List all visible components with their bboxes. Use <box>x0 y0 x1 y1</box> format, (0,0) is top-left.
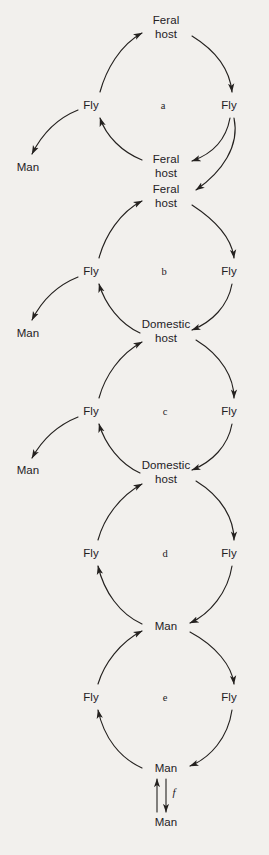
domestic-host-to-fly-left-c <box>99 424 140 473</box>
fly-right-to-man-e <box>190 710 232 766</box>
fly-left-to-domestic-host-d <box>98 484 142 540</box>
domestic-host-to-fly-left-b <box>99 284 140 333</box>
fly-right-to-man-d <box>190 566 232 623</box>
node-label-n20: Man <box>155 761 178 775</box>
transmission-cycle-diagram: Feral hostFlyFlyManFeral hostFeral hostF… <box>0 0 269 855</box>
fly-right-to-feral-host-b <box>196 118 235 190</box>
node-label-n15: Fly <box>83 546 99 560</box>
node-label-n8: Fly <box>221 264 237 278</box>
feral-host-to-fly-right-b <box>192 205 234 258</box>
node-label-n6: Feral host <box>153 182 180 210</box>
node-label-n17: Man <box>155 619 178 633</box>
domestic-host-to-fly-right-d <box>196 481 234 540</box>
node-label-n19: Fly <box>221 690 237 704</box>
node-label-n4: Man <box>17 160 40 174</box>
fly-right-to-domestic-host-c <box>192 424 232 470</box>
node-label-n1: Feral host <box>153 13 180 41</box>
edge-letter-f: f <box>172 786 175 798</box>
cycle-letter-a: a <box>161 100 166 111</box>
fly-left-to-man-a <box>32 110 78 154</box>
node-label-n13: Man <box>17 463 40 477</box>
man-to-fly-left-d <box>98 566 142 624</box>
fly-left-to-man-c <box>32 417 78 458</box>
node-label-n14: Domestic host <box>142 458 191 486</box>
fly-left-to-feral-host-a <box>100 33 142 92</box>
fly-left-to-man-e <box>98 631 142 684</box>
node-label-n3: Fly <box>221 98 237 112</box>
man-to-fly-left-e <box>98 710 142 768</box>
node-label-n7: Fly <box>83 264 99 278</box>
fly-right-to-domestic-host-b <box>192 284 232 330</box>
node-label-n9: Man <box>17 326 40 340</box>
node-label-n11: Fly <box>83 404 99 418</box>
cycle-letter-d: d <box>162 548 167 559</box>
man-to-fly-right-e <box>190 632 234 684</box>
fly-left-to-domestic-host-c <box>99 342 142 398</box>
feral-host-to-fly-right-a <box>192 36 232 92</box>
cycle-letter-b: b <box>161 266 166 277</box>
diagram-arrow-layer <box>0 0 269 855</box>
feral-host-to-fly-left-a <box>100 118 142 160</box>
cycle-letter-e: e <box>163 692 168 703</box>
fly-left-to-feral-host-b <box>99 201 142 258</box>
fly-right-to-feral-host-a <box>192 118 230 161</box>
node-label-n5: Feral host <box>153 152 180 180</box>
domestic-host-to-fly-right-c <box>196 340 234 398</box>
fly-left-to-man-b <box>32 277 78 320</box>
node-label-n12: Fly <box>221 404 237 418</box>
node-label-n10: Domestic host <box>142 317 191 345</box>
node-label-n2: Fly <box>83 98 99 112</box>
cycle-letter-c: c <box>163 406 168 417</box>
node-label-n21: Man <box>155 815 178 829</box>
node-label-n16: Fly <box>221 546 237 560</box>
node-label-n18: Fly <box>83 690 99 704</box>
